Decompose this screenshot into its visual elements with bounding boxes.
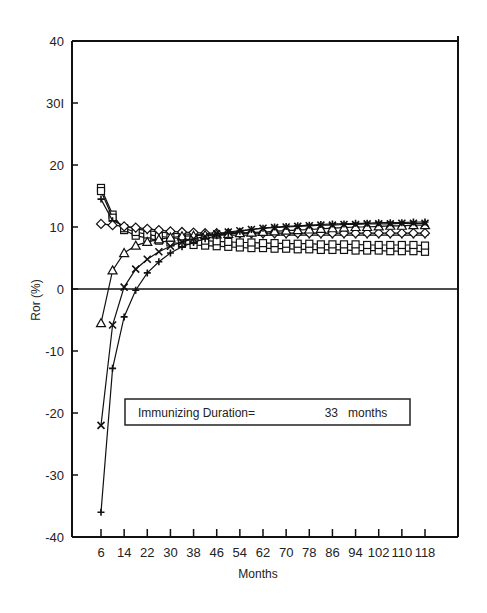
x-marker-icon [132,266,139,273]
square-marker-icon [341,241,348,248]
annotation-label: Immunizing Duration= [138,406,255,420]
triangle-marker-icon [120,249,129,257]
immunizing-duration-box: Immunizing Duration= 33 months [125,399,410,425]
square-marker-icon [306,240,313,247]
square-marker-icon [317,241,324,248]
x-tick-label: 6 [97,545,104,560]
x-marker-icon [144,256,151,263]
square-marker-icon [364,241,371,248]
x-axis-ticks: 61422303846546270788694102110118 [97,529,435,560]
x-tick-label: 54 [233,545,247,560]
square-marker-icon [260,240,267,247]
square-marker-icon [271,240,278,247]
y-tick-label: 0 [57,282,64,297]
x-axis-title: Months [238,567,277,581]
series-plus-bottom [98,219,429,516]
diamond-marker-icon [409,229,418,238]
y-tick-label: 30I [46,96,64,111]
plot-frame [72,36,458,537]
x-tick-label: 38 [186,545,200,560]
triangle-marker-icon [97,319,106,327]
y-axis-title: Ror (%) [29,279,43,320]
x-tick-label: 110 [391,545,412,560]
square-marker-icon [422,242,429,249]
x-tick-label: 22 [140,545,154,560]
x-tick-label: 102 [368,545,390,560]
ror-line-chart: 4030I20100-10-20-30-40 61422303846546270… [0,0,487,613]
annotation-value: 33 [325,406,339,420]
diamond-marker-icon [386,229,395,238]
square-marker-icon [352,241,359,248]
square-marker-icon [410,241,417,248]
plus-marker-icon [329,220,336,227]
x-marker-icon [155,248,162,255]
plus-marker-icon [98,509,105,516]
diamond-marker-icon [421,229,430,238]
plus-marker-icon [132,287,139,294]
x-tick-label: 30 [163,545,177,560]
diamond-marker-icon [397,229,406,238]
square-marker-icon [98,188,105,195]
square-marker-icon [236,239,243,246]
x-tick-label: 86 [325,545,339,560]
square-marker-icon [294,240,301,247]
y-tick-label: -20 [45,406,64,421]
data-series [97,184,430,515]
square-marker-icon [225,238,232,245]
x-tick-label: 70 [279,545,293,560]
series-line [101,222,425,512]
plus-marker-icon [121,313,128,320]
diamond-marker-icon [97,219,106,228]
x-tick-label: 94 [348,545,362,560]
y-tick-label: 10 [50,220,64,235]
x-tick-label: 62 [256,545,270,560]
square-marker-icon [283,240,290,247]
x-tick-label: 78 [302,545,316,560]
triangle-marker-icon [108,266,117,274]
square-marker-icon [375,241,382,248]
x-tick-label: 46 [209,545,223,560]
y-tick-label: 20 [50,158,64,173]
y-tick-label: 40 [50,34,64,49]
x-tick-label: 118 [415,545,436,560]
y-tick-label: -40 [45,530,64,545]
x-tick-label: 14 [117,545,131,560]
y-tick-label: -10 [45,344,64,359]
plus-marker-icon [109,365,116,372]
y-tick-label: -30 [45,468,64,483]
square-marker-icon [387,241,394,248]
square-marker-icon [329,241,336,248]
square-marker-icon [248,239,255,246]
annotation-unit: months [348,406,387,420]
square-marker-icon [398,241,405,248]
y-axis-ticks: 4030I20100-10-20-30-40 [45,34,78,545]
